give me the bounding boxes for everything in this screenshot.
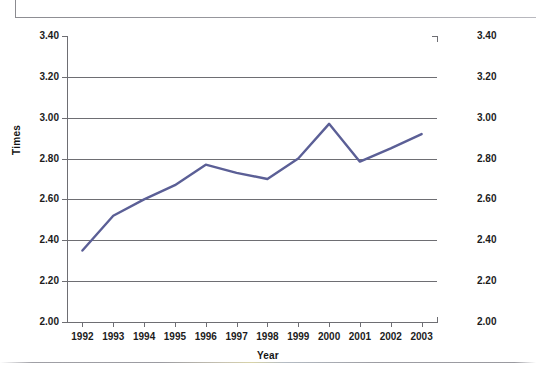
- y-axis-tick-mark: [62, 159, 67, 160]
- x-axis-tick-label: 1996: [189, 331, 223, 342]
- x-axis-tick-mark: [329, 322, 330, 327]
- y-axis-left-tick-label-text: 3.40: [40, 30, 59, 41]
- x-axis-tick-label: 2002: [374, 331, 408, 342]
- plot-area: [67, 36, 437, 322]
- y-axis-left-tick-label-text: 3.00: [40, 112, 59, 123]
- y-axis-right-tick-label-text: 2.80: [477, 153, 496, 164]
- x-axis-tick-mark: [237, 322, 238, 327]
- y-axis-right-tick-label-text: 2.60: [477, 193, 496, 204]
- y-axis-right-tick-label-text: 3.40: [477, 30, 496, 41]
- x-axis-tick-label: 1998: [250, 331, 284, 342]
- x-axis-tick-label: 1995: [158, 331, 192, 342]
- x-axis-tick-label: 1997: [220, 331, 254, 342]
- y-axis-tick-mark: [62, 281, 67, 282]
- x-axis-tick-mark: [113, 322, 114, 327]
- x-axis-title: Year: [0, 350, 536, 361]
- x-axis-tick-label: 2003: [405, 331, 439, 342]
- y-axis-title: Times: [11, 125, 22, 155]
- gridline: [67, 77, 437, 78]
- x-axis-tick-label: 1992: [65, 331, 99, 342]
- y-axis-tick-mark: [62, 77, 67, 78]
- y-axis-left-tick-label-text: 2.60: [40, 193, 59, 204]
- gridline: [67, 240, 437, 241]
- x-axis-tick-mark: [267, 322, 268, 327]
- y-axis-right-tick-label-text: 3.00: [477, 112, 496, 123]
- y-axis-right-tick-label-text: 3.20: [477, 71, 496, 82]
- x-axis-tick-mark: [422, 322, 423, 327]
- gridline: [67, 159, 437, 160]
- x-axis-tick-label: 2000: [312, 331, 346, 342]
- y-axis-left-line: [67, 36, 68, 323]
- x-axis-tick-mark: [175, 322, 176, 327]
- y-axis-right-cap: [437, 317, 438, 323]
- y-axis-left-tick-label-text: 2.00: [40, 316, 59, 327]
- y-axis-right-tick-label-text: 2.20: [477, 275, 496, 286]
- y-axis-tick-mark: [62, 199, 67, 200]
- x-axis-tick-mark: [391, 322, 392, 327]
- x-axis-line: [67, 322, 438, 323]
- y-axis-tick-mark: [62, 322, 67, 323]
- y-axis-left-tick-label-text: 3.20: [40, 71, 59, 82]
- x-axis-tick-mark: [298, 322, 299, 327]
- y-axis-right-cap: [437, 36, 438, 42]
- x-axis-tick-label: 1994: [127, 331, 161, 342]
- x-axis-tick-label: 1999: [281, 331, 315, 342]
- y-axis-tick-mark: [62, 118, 67, 119]
- x-axis-tick-mark: [360, 322, 361, 327]
- x-axis-tick-mark: [206, 322, 207, 327]
- line-chart: 3.403.203.002.802.602.402.202.00 3.403.2…: [0, 0, 536, 377]
- x-axis-tick-label: 1993: [96, 331, 130, 342]
- gridline: [67, 199, 437, 200]
- x-axis-tick-mark: [82, 322, 83, 327]
- x-axis-tick-mark: [144, 322, 145, 327]
- gridline: [67, 281, 437, 282]
- y-axis-left-tick-label-text: 2.20: [40, 275, 59, 286]
- gridline: [67, 118, 437, 119]
- y-axis-left-tick-label-text: 2.80: [40, 153, 59, 164]
- x-axis-tick-label: 2001: [343, 331, 377, 342]
- y-axis-right-tick-label-text: 2.00: [477, 316, 496, 327]
- y-axis-right-tick-label-text: 2.40: [477, 234, 496, 245]
- y-axis-left-tick-label-text: 2.40: [40, 234, 59, 245]
- y-axis-tick-mark: [62, 240, 67, 241]
- y-axis-tick-mark: [62, 36, 67, 37]
